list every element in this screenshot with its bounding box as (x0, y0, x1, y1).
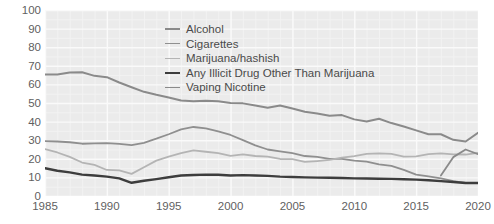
x-tick-label: 2000 (218, 200, 244, 212)
chart-legend: AlcoholCigarettesMarijuana/hashishAny Il… (165, 22, 374, 95)
x-tick-label: 1990 (94, 200, 120, 212)
legend-item[interactable]: Alcohol (165, 22, 374, 37)
legend-item[interactable]: Cigarettes (165, 37, 374, 52)
legend-item[interactable]: Vaping Nicotine (165, 80, 374, 95)
legend-label: Marijuana/hashish (186, 51, 279, 66)
legend-label: Any Illicit Drug Other Than Marijuana (186, 66, 374, 81)
x-tick-label: 2020 (465, 200, 491, 212)
x-tick-label: 1995 (156, 200, 182, 212)
legend-label: Cigarettes (186, 37, 238, 52)
legend-line-swatch (165, 58, 180, 59)
x-tick-label: 2015 (403, 200, 429, 212)
legend-item[interactable]: Any Illicit Drug Other Than Marijuana (165, 66, 374, 81)
x-tick-label: 1985 (32, 200, 58, 212)
legend-label: Vaping Nicotine (186, 80, 266, 95)
line-chart: Percent 0102030405060708090100 198519901… (0, 0, 494, 224)
legend-item[interactable]: Marijuana/hashish (165, 51, 374, 66)
legend-label: Alcohol (186, 22, 224, 37)
legend-line-swatch (165, 28, 180, 30)
x-tick-label: 2010 (341, 200, 367, 212)
legend-line-swatch (165, 43, 180, 44)
legend-line-swatch (165, 72, 180, 74)
x-tick-label: 2005 (280, 200, 306, 212)
legend-line-swatch (165, 87, 180, 88)
